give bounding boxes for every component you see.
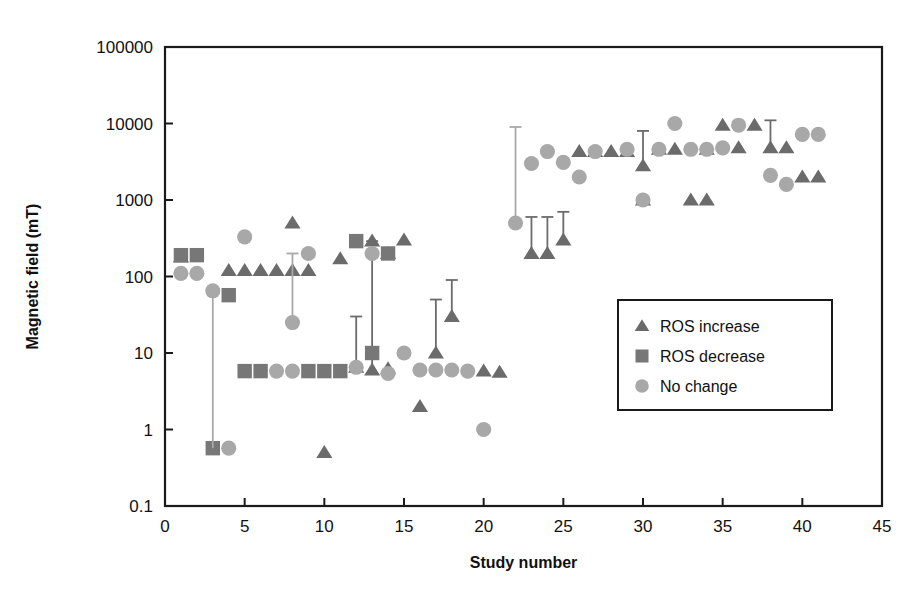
y-axis-title: Magnetic field (mT) <box>24 204 41 350</box>
legend-label: No change <box>660 378 737 395</box>
marker-triangle <box>316 445 332 458</box>
marker-circle <box>795 127 810 142</box>
x-tick-label: 25 <box>554 517 573 536</box>
marker-circle <box>269 364 284 379</box>
marker-circle <box>667 116 682 131</box>
marker-circle <box>715 140 730 155</box>
marker-circle <box>620 142 635 157</box>
y-tick-label: 100 <box>125 268 153 287</box>
marker-circle <box>189 266 204 281</box>
marker-circle <box>635 379 649 393</box>
marker-circle <box>524 156 539 171</box>
x-tick-label: 5 <box>240 517 249 536</box>
marker-circle <box>651 142 666 157</box>
marker-square <box>365 346 379 360</box>
marker-circle <box>221 441 236 456</box>
marker-circle <box>396 345 411 360</box>
marker-triangle <box>284 215 300 228</box>
marker-circle <box>508 215 523 230</box>
marker-circle <box>476 422 491 437</box>
x-tick-label: 40 <box>793 517 812 536</box>
marker-triangle <box>476 364 492 377</box>
marker-square <box>253 364 267 378</box>
y-tick-label: 1000 <box>115 191 153 210</box>
marker-circle <box>556 155 571 170</box>
marker-square <box>349 234 363 248</box>
marker-circle <box>444 362 459 377</box>
marker-triangle <box>523 246 539 259</box>
figure-container: 0.11101001000100001000000510152025303540… <box>0 0 905 597</box>
x-tick-label: 0 <box>160 517 169 536</box>
marker-square <box>237 364 251 378</box>
marker-triangle <box>746 118 762 131</box>
x-tick-label: 35 <box>713 517 732 536</box>
marker-circle <box>381 366 396 381</box>
marker-triangle <box>237 263 253 276</box>
marker-circle <box>301 246 316 261</box>
marker-square <box>174 248 188 262</box>
y-tick-label: 1 <box>144 421 153 440</box>
marker-square <box>636 350 649 363</box>
marker-triangle <box>492 365 508 378</box>
marker-circle <box>205 283 220 298</box>
marker-triangle <box>364 234 380 247</box>
marker-triangle <box>603 144 619 157</box>
marker-triangle <box>571 144 587 157</box>
legend-label: ROS increase <box>660 318 760 335</box>
marker-triangle <box>332 251 348 264</box>
legend: ROS increaseROS decreaseNo change <box>618 300 832 410</box>
marker-triangle <box>444 309 460 322</box>
marker-square <box>381 246 395 260</box>
marker-square <box>317 364 331 378</box>
marker-circle <box>588 144 603 159</box>
x-axis-title: Study number <box>470 554 578 571</box>
marker-circle <box>572 169 587 184</box>
marker-triangle <box>810 169 826 182</box>
scatter-plot: 0.11101001000100001000000510152025303540… <box>0 0 905 597</box>
marker-circle <box>699 142 714 157</box>
marker-triangle <box>731 140 747 153</box>
series-ros-decrease <box>174 234 396 455</box>
x-tick-label: 10 <box>315 517 334 536</box>
marker-circle <box>635 192 650 207</box>
marker-circle <box>683 142 698 157</box>
marker-triangle <box>667 142 683 155</box>
marker-circle <box>173 266 188 281</box>
marker-circle <box>811 127 826 142</box>
marker-triangle <box>253 263 269 276</box>
marker-triangle <box>221 263 237 276</box>
marker-circle <box>731 118 746 133</box>
plot-frame <box>165 47 882 506</box>
marker-triangle <box>300 263 316 276</box>
x-tick-label: 15 <box>395 517 414 536</box>
marker-triangle <box>683 192 699 205</box>
marker-triangle <box>762 140 778 153</box>
marker-circle <box>237 229 252 244</box>
marker-triangle <box>555 232 571 245</box>
marker-square <box>190 248 204 262</box>
marker-square <box>333 364 347 378</box>
y-tick-label: 0.1 <box>129 497 153 516</box>
y-tick-label: 100000 <box>96 38 153 57</box>
y-tick-label: 10000 <box>106 115 153 134</box>
marker-triangle <box>715 118 731 131</box>
marker-square <box>301 364 315 378</box>
marker-square <box>222 288 236 302</box>
y-tick-label: 10 <box>134 344 153 363</box>
marker-triangle <box>396 232 412 245</box>
marker-circle <box>763 168 778 183</box>
marker-circle <box>365 246 380 261</box>
marker-triangle <box>778 140 794 153</box>
marker-circle <box>540 144 555 159</box>
marker-circle <box>460 364 475 379</box>
marker-triangle <box>699 192 715 205</box>
marker-triangle <box>635 158 651 171</box>
marker-triangle <box>412 399 428 412</box>
marker-circle <box>285 364 300 379</box>
marker-circle <box>779 177 794 192</box>
marker-triangle <box>428 345 444 358</box>
marker-circle <box>428 362 443 377</box>
marker-triangle <box>268 263 284 276</box>
marker-circle <box>412 362 427 377</box>
marker-triangle <box>794 169 810 182</box>
